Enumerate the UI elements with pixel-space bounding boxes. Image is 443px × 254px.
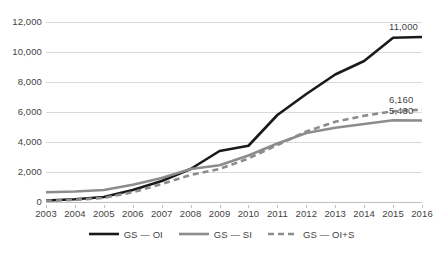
x-tick-label: 2012 [296, 208, 318, 219]
y-tick-label: 8,000 [0, 77, 42, 87]
x-axis-line [46, 202, 422, 203]
x-tick-label: 2013 [324, 208, 346, 219]
x-axis: 2003200420052006200720082009201020112012… [46, 205, 422, 221]
line-chart: 02,0004,0006,0008,00010,00012,000 200320… [0, 0, 443, 254]
x-tick-label: 2007 [151, 208, 173, 219]
y-tick-label: 12,000 [0, 17, 42, 27]
x-tick-label: 2014 [353, 208, 375, 219]
x-tick-label: 2015 [382, 208, 404, 219]
x-tick-label: 2005 [93, 208, 115, 219]
legend-label: GS — SI [214, 229, 252, 240]
x-tick-label: 2016 [411, 208, 433, 219]
y-tick-label: 6,000 [0, 107, 42, 117]
legend-label: GS — OI [124, 229, 163, 240]
series-line-gsoi [46, 37, 422, 201]
y-tick-label: 4,000 [0, 137, 42, 147]
x-tick-label: 2011 [267, 208, 288, 219]
legend-item-gsoi[interactable]: GS — OI [89, 229, 163, 240]
legend-label: GS — OI+S [303, 229, 354, 240]
x-tick-label: 2009 [209, 208, 231, 219]
series-line-gssi [46, 120, 422, 192]
x-tick-label: 2003 [35, 208, 57, 219]
data-label: 11,000 [389, 22, 418, 32]
plot-area [46, 22, 422, 202]
chart-legend: GS — OIGS — SIGS — OI+S [0, 226, 443, 242]
legend-item-gsoi+s[interactable]: GS — OI+S [268, 229, 354, 240]
data-label: 6,160 [389, 95, 413, 105]
x-tick-label: 2006 [122, 208, 144, 219]
data-label: 5,430 [389, 106, 413, 116]
solid-line-swatch [89, 229, 119, 239]
x-tick-label: 2008 [180, 208, 202, 219]
legend-item-gssi[interactable]: GS — SI [179, 229, 252, 240]
y-tick-label: 0 [0, 197, 42, 207]
y-tick-label: 2,000 [0, 167, 42, 177]
x-tick-label: 2010 [238, 208, 260, 219]
dashed-line-swatch [268, 229, 298, 239]
x-tick-label: 2004 [64, 208, 86, 219]
y-tick-label: 10,000 [0, 47, 42, 57]
series-layer [46, 22, 422, 202]
solid-line-swatch [179, 229, 209, 239]
